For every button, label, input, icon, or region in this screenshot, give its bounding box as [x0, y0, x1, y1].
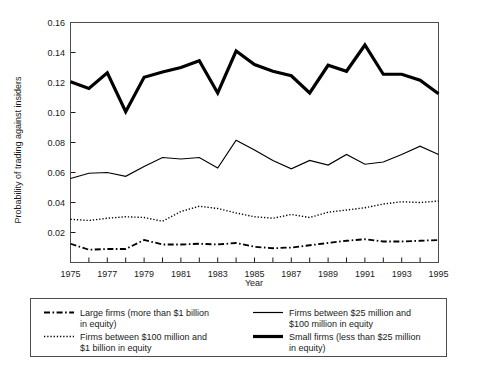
y-tick-label: 0.04: [47, 198, 65, 208]
x-tick-label: 1989: [318, 269, 338, 279]
y-tick-label: 0.02: [47, 228, 65, 238]
x-tick-label: 1993: [392, 269, 412, 279]
x-tick-label: 1975: [60, 269, 80, 279]
x-tick-label: 1983: [208, 269, 228, 279]
legend-label-line1: Firms between $25 million and: [289, 308, 411, 318]
x-axis-tick-marks: [71, 258, 439, 263]
x-axis-title: Year: [245, 278, 263, 288]
x-tick-label: 1979: [134, 269, 154, 279]
x-tick-label: 1991: [355, 269, 375, 279]
x-tick-label: 1985: [244, 269, 264, 279]
legend-label-line1: Small firms (less than $25 million: [289, 332, 421, 342]
x-tick-label: 1987: [281, 269, 301, 279]
y-tick-label: 0.06: [47, 168, 65, 178]
chart-figure: Probability of trading against insiders …: [0, 0, 477, 372]
legend-label-line2: $1 billion in equity: [80, 343, 152, 353]
y-tick-label: 0.12: [47, 78, 65, 88]
y-axis-title: Probability of trading against insiders: [13, 76, 23, 224]
y-tick-label: 0.08: [47, 138, 65, 148]
legend-label-line2: in equity): [80, 319, 117, 329]
legend-label-line2: $100 million in equity: [289, 319, 374, 329]
legend-label-line1: Firms between $100 million and: [80, 332, 207, 342]
x-tick-label: 1995: [428, 269, 448, 279]
x-tick-label: 1977: [97, 269, 117, 279]
x-tick-label: 1981: [171, 269, 191, 279]
y-tick-label: 0.16: [47, 18, 65, 28]
probability-trading-against-insiders-line-chart: Probability of trading against insiders …: [0, 0, 477, 372]
y-tick-label: 0.10: [47, 108, 65, 118]
y-tick-label: 0.14: [47, 48, 65, 58]
legend-label-line1: Large firms (more than $1 billion: [80, 308, 209, 318]
legend-label-line2: in equity): [289, 343, 326, 353]
